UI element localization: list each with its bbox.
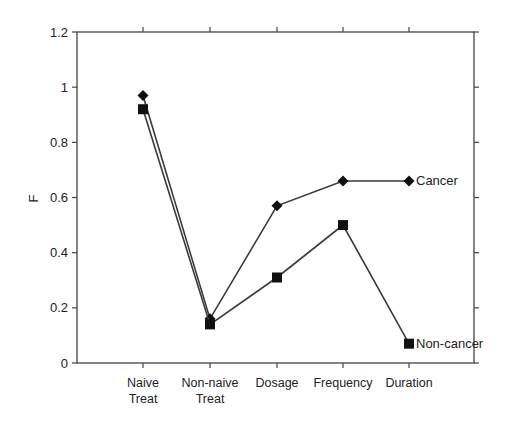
diamond-marker-icon xyxy=(404,175,415,186)
y-tick-label: 0.4 xyxy=(50,245,68,260)
series-label: Cancer xyxy=(416,173,459,188)
square-marker-icon xyxy=(338,220,348,230)
series-non-cancer: Non-cancer xyxy=(138,104,484,351)
series-cancer: Cancer xyxy=(138,90,459,324)
y-tick-label: 0.2 xyxy=(50,300,68,315)
x-tick-label: Dosage xyxy=(255,376,298,390)
series-label: Non-cancer xyxy=(416,336,484,351)
x-tick-label: Treat xyxy=(196,392,225,406)
y-tick-label: 0.8 xyxy=(50,135,68,150)
x-tick-label: Non-naive xyxy=(182,376,239,390)
y-tick-label: 0 xyxy=(61,356,68,371)
line-chart: 00.20.40.60.811.2 NaiveTreatNon-naiveTre… xyxy=(0,0,508,426)
x-tick-label: Treat xyxy=(129,392,158,406)
series-lines: CancerNon-cancer xyxy=(138,90,484,351)
diamond-marker-icon xyxy=(138,90,149,101)
plot-frame xyxy=(77,32,474,363)
square-marker-icon xyxy=(205,319,215,329)
square-marker-icon xyxy=(272,272,282,282)
square-marker-icon xyxy=(404,339,414,349)
diamond-marker-icon xyxy=(272,200,283,211)
diamond-marker-icon xyxy=(338,175,349,186)
y-tick-label: 1 xyxy=(61,80,68,95)
y-axis-title: F xyxy=(26,194,41,202)
x-tick-label: Naive xyxy=(127,376,159,390)
y-tick-label: 0.6 xyxy=(50,190,68,205)
x-tick-label: Duration xyxy=(385,376,432,390)
y-tick-label: 1.2 xyxy=(50,25,68,40)
y-axis: 00.20.40.60.811.2 xyxy=(50,25,479,371)
x-axis: NaiveTreatNon-naiveTreatDosageFrequencyD… xyxy=(127,27,433,406)
square-marker-icon xyxy=(138,104,148,114)
x-tick-label: Frequency xyxy=(313,376,373,390)
plot-border xyxy=(77,32,474,363)
